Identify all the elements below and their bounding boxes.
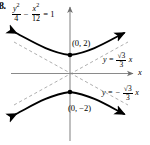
asymptote-negative-suffix: x: [135, 88, 139, 97]
asymptote-positive-fraction: √3 3: [116, 52, 126, 69]
asymptote-positive-label: y = √3 3 x: [103, 52, 132, 69]
asymptote-positive-suffix: x: [129, 55, 133, 64]
vertex-lower-point: [68, 90, 73, 95]
vertex-upper-point: [68, 53, 73, 58]
asymptote-positive-denominator: 3: [116, 61, 126, 69]
vertex-upper-label: (0, 2): [72, 39, 90, 48]
graph-canvas: [0, 0, 150, 145]
asymptote-negative-fraction: √3 3: [123, 85, 133, 102]
vertex-lower-label: (0, −2): [68, 104, 91, 113]
x-axis-label: x: [138, 68, 142, 77]
asymptote-negative-label: y = − √3 3 x: [102, 85, 139, 102]
asymptote-negative-prefix: y = −: [102, 88, 120, 97]
asymptote-positive-prefix: y =: [103, 55, 114, 64]
hyperbola-figure: 8. y2 4 − x2 12 = 1: [0, 0, 150, 145]
asymptote-negative-denominator: 3: [123, 94, 133, 102]
